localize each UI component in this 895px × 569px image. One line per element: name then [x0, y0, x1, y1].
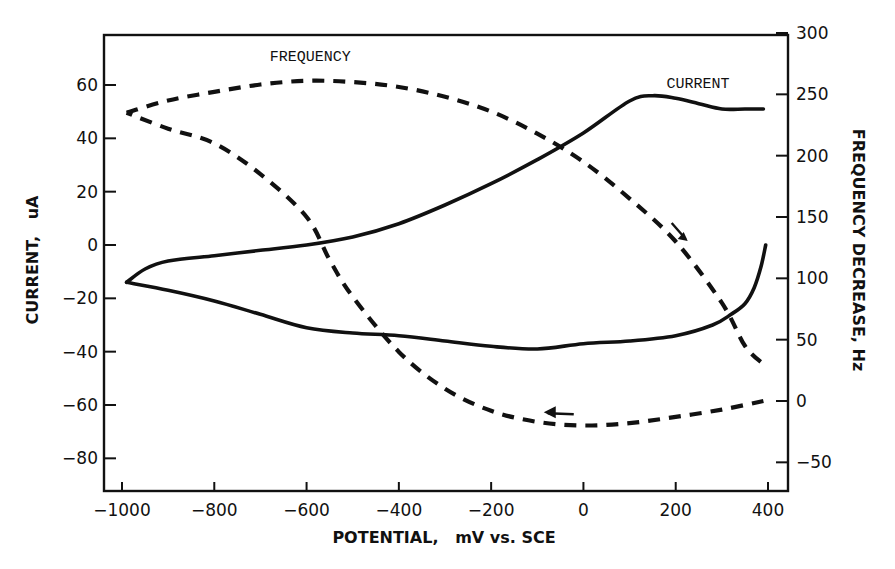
x-tick-label: −200	[468, 500, 515, 520]
y-axis-left-title: CURRENT, uA	[23, 195, 42, 325]
y-axis-right-title: FREQUENCY DECREASE, Hz	[849, 129, 868, 371]
y-tick-label: 40	[76, 128, 98, 148]
y-right-tick-label: 300	[796, 23, 828, 43]
frequency-label: FREQUENCY	[270, 49, 351, 66]
current-curve	[127, 245, 766, 349]
current-curve	[127, 96, 764, 283]
plot-frame	[104, 35, 788, 491]
x-axis-title: POTENTIAL, mV vs. SCE	[332, 528, 555, 547]
y-tick-label: 60	[76, 75, 98, 95]
y-tick-label: 20	[76, 182, 98, 202]
y-right-tick-label: 150	[796, 207, 828, 227]
x-tick-label: −1000	[93, 500, 151, 520]
x-tick-label: 0	[578, 500, 589, 520]
direction-arrows	[544, 223, 688, 418]
y-right-tick-label: 100	[796, 268, 828, 288]
series-layer	[127, 81, 766, 426]
y-axis-right: 300250200150100500−50	[776, 23, 832, 472]
y-tick-label: −40	[62, 342, 98, 362]
x-tick-label: 200	[659, 500, 691, 520]
arrowhead-icon	[544, 406, 556, 418]
x-tick-label: −600	[283, 500, 330, 520]
frequency-curve	[127, 113, 764, 426]
y-right-tick-label: 250	[796, 84, 828, 104]
y-tick-label: −60	[62, 395, 98, 415]
y-tick-label: 0	[87, 235, 98, 255]
x-tick-label: 400	[752, 500, 784, 520]
y-right-tick-label: 0	[796, 391, 807, 411]
y-tick-label: −20	[62, 288, 98, 308]
y-right-tick-label: −50	[796, 452, 832, 472]
chart: −1000−800−600−400−2000200400 6040200−20−…	[0, 0, 895, 569]
annotations: FREQUENCYCURRENT	[270, 49, 730, 93]
frequency-curve	[127, 81, 764, 365]
y-tick-label: −80	[62, 448, 98, 468]
x-tick-label: −800	[191, 500, 238, 520]
current-label: CURRENT	[666, 76, 729, 93]
y-right-tick-label: 50	[796, 330, 818, 350]
x-axis: −1000−800−600−400−2000200400	[93, 482, 784, 520]
x-tick-label: −400	[376, 500, 423, 520]
y-axis-left: 6040200−20−40−60−80	[62, 75, 116, 468]
y-right-tick-label: 200	[796, 146, 828, 166]
